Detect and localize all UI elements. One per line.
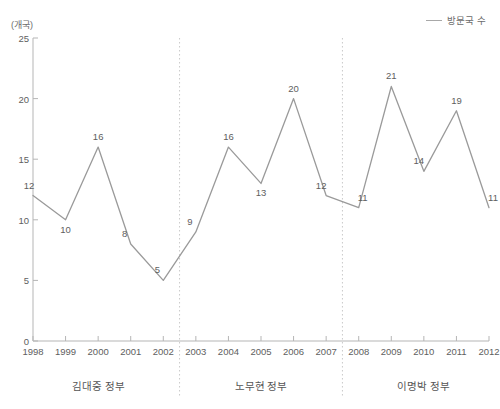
y-axis-tick-label: 10 [18, 214, 29, 225]
data-point-label: 16 [223, 131, 234, 142]
x-axis-tick-label: 2002 [153, 346, 174, 357]
period-label: 김대중 정부 [72, 378, 125, 393]
period-divider-lines [180, 38, 343, 398]
data-point-label: 11 [488, 192, 498, 203]
data-point-label: 20 [288, 83, 299, 94]
data-point-label: 12 [24, 180, 35, 191]
x-axis-ticks [33, 336, 489, 341]
x-axis-tick-label: 2000 [88, 346, 109, 357]
series-line-visited-countries [33, 86, 489, 280]
x-axis-tick-label: 2005 [250, 346, 271, 357]
x-axis-tick-label: 2010 [413, 346, 434, 357]
data-point-label: 21 [386, 70, 397, 81]
data-point-label: 9 [187, 216, 192, 227]
x-axis-tick-label: 2012 [478, 346, 499, 357]
data-point-label: 19 [451, 95, 462, 106]
y-axis-tick-label: 25 [18, 33, 29, 44]
period-label: 노무현 정부 [235, 378, 288, 393]
y-axis-tick-label: 20 [18, 93, 29, 104]
x-axis-tick-label: 2003 [185, 346, 206, 357]
y-axis-tick-label: 5 [24, 275, 29, 286]
data-point-label: 10 [60, 224, 71, 235]
y-axis-tick-label: 15 [18, 154, 29, 165]
data-point-label: 12 [316, 180, 327, 191]
x-axis-tick-label: 1998 [22, 346, 43, 357]
x-axis-tick-label: 2011 [446, 346, 466, 357]
data-point-label: 5 [155, 264, 160, 275]
y-axis-tick-label: 0 [24, 336, 29, 347]
x-axis-tick-label: 2009 [381, 346, 402, 357]
data-point-label: 14 [414, 155, 425, 166]
x-axis-tick-label: 2001 [120, 346, 141, 357]
data-point-label: 8 [122, 228, 127, 239]
period-label: 이명박 정부 [397, 378, 450, 393]
x-axis-tick-label: 1999 [55, 346, 76, 357]
x-axis-tick-label: 2008 [348, 346, 369, 357]
data-point-label: 11 [358, 192, 368, 203]
x-axis-tick-label: 2007 [316, 346, 337, 357]
x-axis-tick-label: 2004 [218, 346, 239, 357]
x-axis-tick-label: 2006 [283, 346, 304, 357]
data-point-label: 16 [93, 131, 104, 142]
data-point-label: 13 [256, 187, 267, 198]
